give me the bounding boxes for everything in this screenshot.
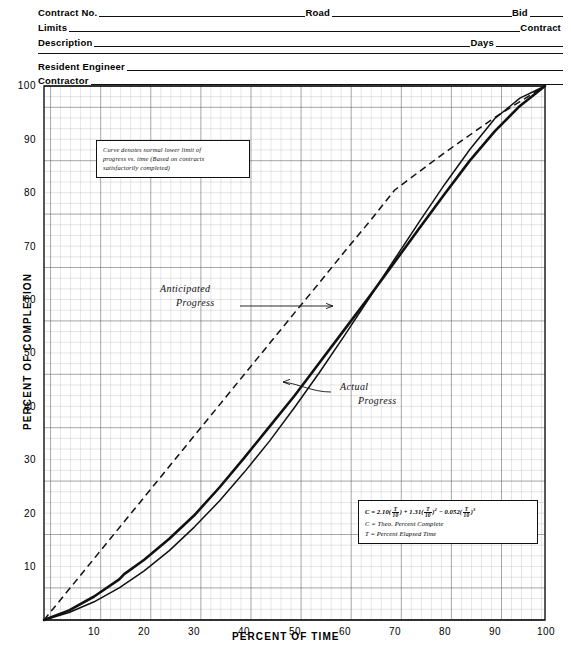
y-tick-70: 70 bbox=[6, 241, 36, 252]
y-tick-60: 60 bbox=[6, 294, 36, 305]
y-tick-90: 90 bbox=[6, 134, 36, 145]
label-actual-progress-line2: Progress bbox=[358, 395, 397, 406]
formula-fraction-3: T10 bbox=[463, 507, 471, 519]
formula-prefix: C = 2.10 bbox=[365, 508, 389, 515]
label-anticipated-progress-line1: Anticipated bbox=[160, 283, 211, 294]
y-tick-40: 40 bbox=[6, 401, 36, 412]
formula-legend-c: C = Theo. Percent Complete bbox=[365, 519, 531, 529]
x-tick-10: 10 bbox=[79, 626, 109, 637]
formula-fraction-1: T10 bbox=[392, 507, 400, 519]
curve-note-line-3: satisfactorily completed) bbox=[103, 163, 243, 172]
label-actual-progress-line1: Actual bbox=[340, 381, 369, 392]
x-tick-100: 100 bbox=[530, 626, 562, 637]
y-tick-10: 10 bbox=[6, 561, 36, 572]
formula-legend-t: T = Percent Elapsed Time bbox=[365, 529, 531, 539]
x-tick-40: 40 bbox=[229, 626, 259, 637]
x-tick-30: 30 bbox=[179, 626, 209, 637]
x-tick-80: 80 bbox=[430, 626, 460, 637]
formula-fraction-2: T10 bbox=[424, 507, 432, 519]
y-tick-80: 80 bbox=[6, 187, 36, 198]
x-tick-50: 50 bbox=[280, 626, 310, 637]
y-tick-100: 100 bbox=[6, 80, 36, 91]
curve-note-line-2: progress vs. time (Based on contracts bbox=[103, 154, 243, 163]
formula-term2-op: + 1.31 bbox=[404, 508, 422, 515]
progress-chart bbox=[0, 0, 571, 650]
curve-note-line-1: Curve denotes normal lower limit of bbox=[103, 145, 243, 154]
y-tick-20: 20 bbox=[6, 508, 36, 519]
formula-box: C = 2.10(T10) + 1.31(T10)2 − 0.052(T10)3… bbox=[358, 500, 538, 544]
x-tick-60: 60 bbox=[330, 626, 360, 637]
label-anticipated-progress-line2: Progress bbox=[176, 297, 215, 308]
formula-equation: C = 2.10(T10) + 1.31(T10)2 − 0.052(T10)3 bbox=[365, 505, 531, 519]
y-tick-30: 30 bbox=[6, 454, 36, 465]
x-tick-70: 70 bbox=[380, 626, 410, 637]
formula-exp-3: 3 bbox=[473, 507, 475, 512]
y-tick-50: 50 bbox=[6, 347, 36, 358]
formula-exp-2: 2 bbox=[434, 507, 436, 512]
x-tick-20: 20 bbox=[129, 626, 159, 637]
curve-note-box: Curve denotes normal lower limit of prog… bbox=[96, 140, 250, 178]
x-tick-90: 90 bbox=[480, 626, 510, 637]
formula-term3-op: − 0.052 bbox=[439, 508, 460, 515]
